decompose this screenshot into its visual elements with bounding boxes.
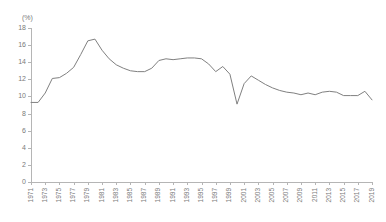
x-tick-mark — [88, 182, 89, 185]
x-tick-mark — [202, 182, 203, 185]
x-tick-mark — [301, 182, 302, 185]
x-tick-label: 1973 — [42, 188, 49, 202]
y-tick-label: 18 — [18, 24, 26, 31]
x-tick-label: 1987 — [141, 188, 148, 202]
x-tick-mark — [45, 182, 46, 185]
x-tick-label: 1975 — [56, 188, 63, 202]
x-tick-mark — [216, 182, 217, 185]
y-axis-tick-labels: 024681012141618 — [0, 0, 26, 222]
x-tick-mark — [130, 182, 131, 185]
x-tick-label: 1983 — [113, 188, 120, 202]
y-tick-mark — [28, 62, 31, 63]
y-tick-mark — [28, 45, 31, 46]
x-tick-label: 1981 — [99, 188, 106, 202]
y-tick-label: 2 — [22, 161, 26, 168]
x-tick-label: 1971 — [28, 188, 35, 202]
y-tick-label: 6 — [22, 127, 26, 134]
y-tick-label: 12 — [18, 75, 26, 82]
y-tick-mark — [28, 114, 31, 115]
y-tick-label: 10 — [18, 92, 26, 99]
y-tick-label: 4 — [22, 144, 26, 151]
x-tick-mark — [230, 182, 231, 185]
x-tick-label: 2017 — [354, 188, 361, 202]
y-tick-label: 8 — [22, 110, 26, 117]
x-tick-mark — [31, 182, 32, 185]
x-tick-mark — [116, 182, 117, 185]
x-tick-mark — [187, 182, 188, 185]
y-tick-mark — [28, 96, 31, 97]
x-tick-label: 2013 — [326, 188, 333, 202]
x-tick-label: 1991 — [170, 188, 177, 202]
y-axis-line — [31, 28, 32, 183]
x-tick-mark — [273, 182, 274, 185]
y-tick-mark — [28, 165, 31, 166]
x-tick-mark — [358, 182, 359, 185]
x-tick-label: 2019 — [369, 188, 376, 202]
x-tick-label: 1997 — [212, 188, 219, 202]
x-tick-mark — [159, 182, 160, 185]
x-tick-label: 2007 — [283, 188, 290, 202]
x-tick-label: 1999 — [226, 188, 233, 202]
y-tick-label: 0 — [22, 178, 26, 185]
x-tick-mark — [59, 182, 60, 185]
x-tick-mark — [344, 182, 345, 185]
x-tick-mark — [74, 182, 75, 185]
x-tick-label: 2001 — [241, 188, 248, 202]
y-tick-mark — [28, 131, 31, 132]
x-tick-label: 2015 — [340, 188, 347, 202]
x-tick-mark — [173, 182, 174, 185]
x-tick-label: 2009 — [297, 188, 304, 202]
x-tick-label: 1977 — [70, 188, 77, 202]
x-tick-label: 2011 — [312, 188, 319, 202]
x-tick-label: 2003 — [255, 188, 262, 202]
x-tick-label: 1985 — [127, 188, 134, 202]
y-tick-mark — [28, 79, 31, 80]
x-tick-mark — [287, 182, 288, 185]
line-chart: (%) 024681012141618 19711973197519771979… — [0, 0, 386, 222]
x-tick-label: 1993 — [184, 188, 191, 202]
x-tick-label: 1979 — [84, 188, 91, 202]
x-tick-mark — [258, 182, 259, 185]
y-tick-label: 14 — [18, 58, 26, 65]
x-tick-mark — [102, 182, 103, 185]
data-series-line — [31, 39, 372, 104]
x-tick-mark — [372, 182, 373, 185]
x-tick-label: 2005 — [269, 188, 276, 202]
x-tick-label: 1995 — [198, 188, 205, 202]
x-tick-mark — [329, 182, 330, 185]
y-tick-label: 16 — [18, 41, 26, 48]
y-tick-mark — [28, 148, 31, 149]
x-tick-label: 1989 — [155, 188, 162, 202]
y-tick-mark — [28, 28, 31, 29]
x-tick-mark — [315, 182, 316, 185]
x-tick-mark — [145, 182, 146, 185]
x-tick-mark — [244, 182, 245, 185]
